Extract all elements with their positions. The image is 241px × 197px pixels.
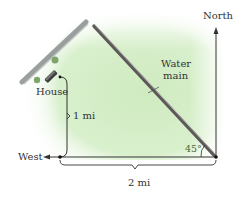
water-main-label-line2: main xyxy=(163,71,188,81)
horizontal-distance-label: 2 mi xyxy=(128,178,150,188)
house-label: House xyxy=(36,87,68,97)
diagram-graphic xyxy=(0,0,241,197)
ground-area xyxy=(0,0,225,160)
vertical-distance-label: 1 mi xyxy=(73,111,95,121)
west-label: West xyxy=(18,152,43,162)
distance-brace-2mi xyxy=(60,160,216,169)
house-point xyxy=(59,76,62,79)
north-label: North xyxy=(203,11,233,21)
angle-label: 45° xyxy=(185,144,202,154)
water-main-label-line1: Water xyxy=(161,59,191,69)
west-point xyxy=(58,155,62,159)
water-main-diagram: North Water main House 1 mi West 45° 2 m… xyxy=(0,0,241,197)
pipe-end-point xyxy=(214,155,218,159)
